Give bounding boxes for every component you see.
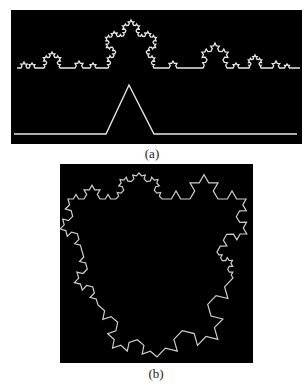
koch-snowflake-plot (60, 164, 253, 363)
koch-curve-plot (11, 10, 302, 144)
panel-b-koch-snowflake (60, 164, 253, 363)
panel-b-caption: (b) (136, 366, 176, 382)
panel-a-koch-curve (11, 10, 302, 144)
panel-a-caption: (a) (132, 146, 172, 162)
